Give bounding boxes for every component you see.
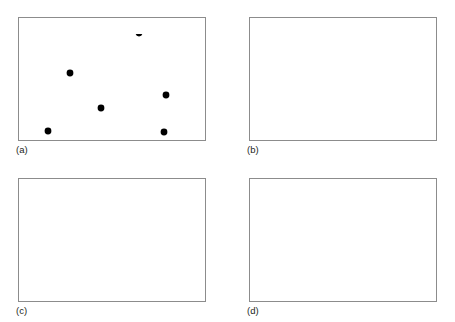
panel-a: (a) [16,18,206,156]
site-point-p3 [98,105,105,112]
panel-label-a: (a) [16,144,28,155]
panel-frame [19,179,206,302]
panel-label-b: (b) [247,144,259,155]
panel-label-d: (d) [247,305,259,316]
panel-frame [19,18,206,141]
panel-frame [250,18,437,141]
panel-label-c: (c) [16,305,27,316]
site-point-p5 [45,128,52,135]
panel-b: (b) [247,18,437,156]
site-point-p2 [67,70,74,77]
site-point-p6 [161,129,168,136]
panel-c: (c) [16,178,206,316]
panel-frame [250,179,437,302]
site-point-p4 [163,92,170,99]
panel-d: (d) [247,178,437,316]
four-panel-voronoi-figure: (a)(b)(c)(d) [0,0,455,322]
